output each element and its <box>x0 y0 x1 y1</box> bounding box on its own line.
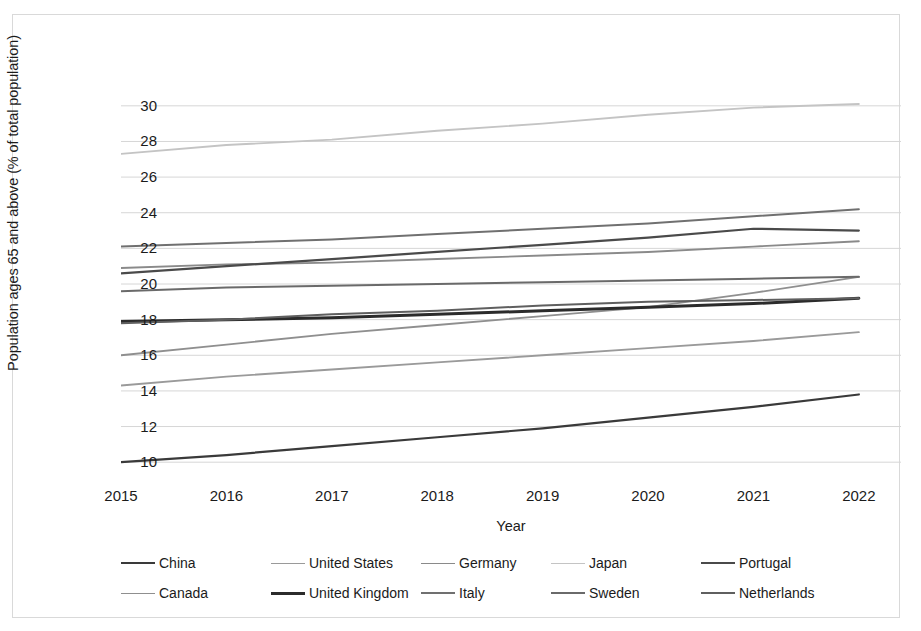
x-axis-tick-2018: 2018 <box>397 488 477 503</box>
series-line-italy <box>121 209 859 246</box>
chart-page: Population ages 65 and above (% of total… <box>0 0 921 631</box>
y-axis-tick-10: 10 <box>111 454 157 469</box>
y-axis-tick-28: 28 <box>111 133 157 148</box>
series-line-germany <box>121 241 859 268</box>
legend-item-canada[interactable]: Canada <box>121 586 208 600</box>
plot-canvas <box>121 88 901 480</box>
y-axis-tick-26: 26 <box>111 169 157 184</box>
series-line-japan <box>121 104 859 154</box>
x-axis-tick-2020: 2020 <box>608 488 688 503</box>
legend-swatch-icon <box>701 592 735 594</box>
series-line-portugal <box>121 229 859 274</box>
legend-item-netherlands[interactable]: Netherlands <box>701 586 815 600</box>
legend-item-united-states[interactable]: United States <box>271 556 393 570</box>
x-axis-title: Year <box>121 518 901 534</box>
legend-label: United Kingdom <box>309 586 409 600</box>
legend-item-japan[interactable]: Japan <box>551 556 627 570</box>
series-line-canada <box>121 277 859 355</box>
legend-swatch-icon <box>121 562 155 564</box>
plot-area: 1012141618202224262830 20152016201720182… <box>121 88 901 480</box>
y-axis-tick-14: 14 <box>111 383 157 398</box>
y-axis-tick-30: 30 <box>111 98 157 113</box>
legend-item-portugal[interactable]: Portugal <box>701 556 791 570</box>
legend-swatch-icon <box>121 593 155 594</box>
x-axis-tick-2015: 2015 <box>81 488 161 503</box>
legend-item-germany[interactable]: Germany <box>421 556 517 570</box>
legend-swatch-icon <box>421 563 455 564</box>
legend-label: China <box>159 556 196 570</box>
y-axis-tick-16: 16 <box>111 347 157 362</box>
legend-swatch-icon <box>551 563 585 564</box>
legend-swatch-icon <box>421 592 455 594</box>
legend-label: Italy <box>459 586 485 600</box>
legend-label: Portugal <box>739 556 791 570</box>
x-axis-tick-2016: 2016 <box>186 488 266 503</box>
legend-label: Netherlands <box>739 586 815 600</box>
legend-label: United States <box>309 556 393 570</box>
legend-label: Germany <box>459 556 517 570</box>
series-line-united-kingdom <box>121 298 859 321</box>
series-line-united-states <box>121 332 859 385</box>
y-axis-tick-22: 22 <box>111 240 157 255</box>
chart-legend: ChinaUnited StatesGermanyJapanPortugalCa… <box>121 556 901 616</box>
legend-label: Canada <box>159 586 208 600</box>
y-axis-tick-12: 12 <box>111 419 157 434</box>
x-axis-tick-2021: 2021 <box>713 488 793 503</box>
x-axis-tick-2022: 2022 <box>819 488 899 503</box>
x-axis-tick-2019: 2019 <box>503 488 583 503</box>
legend-item-italy[interactable]: Italy <box>421 586 485 600</box>
x-axis-tick-2017: 2017 <box>292 488 372 503</box>
legend-swatch-icon <box>271 563 305 564</box>
line-chart-svg <box>121 88 901 480</box>
legend-label: Japan <box>589 556 627 570</box>
legend-label: Sweden <box>589 586 640 600</box>
legend-item-united-kingdom[interactable]: United Kingdom <box>271 586 409 600</box>
y-axis-tick-20: 20 <box>111 276 157 291</box>
chart-frame: Population ages 65 and above (% of total… <box>12 14 900 618</box>
legend-item-china[interactable]: China <box>121 556 196 570</box>
y-axis-tick-18: 18 <box>111 312 157 327</box>
legend-item-sweden[interactable]: Sweden <box>551 586 640 600</box>
legend-swatch-icon <box>701 562 735 564</box>
y-axis-title: Population ages 65 and above (% of total… <box>5 0 21 631</box>
series-line-china <box>121 394 859 462</box>
y-axis-tick-24: 24 <box>111 205 157 220</box>
legend-swatch-icon <box>271 592 305 595</box>
legend-swatch-icon <box>551 592 585 594</box>
